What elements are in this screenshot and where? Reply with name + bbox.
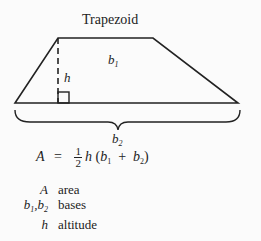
label-h: h [64,70,71,86]
legend-row-altitude: haltitude [10,217,97,232]
base-brace [15,110,240,130]
legend: Aarea b1,b2bases haltitude [10,182,97,232]
legend-row-bases: b1,b2bases [10,197,97,217]
fraction-half: 12 [74,146,82,169]
label-b1: b1 [108,52,119,69]
area-formula: A = 12h (b1 + b2) [36,146,149,169]
trapezoid-shape [15,38,238,103]
legend-row-area: Aarea [10,182,97,197]
diagram-title: Trapezoid [82,12,138,28]
right-angle-marker [58,92,69,103]
